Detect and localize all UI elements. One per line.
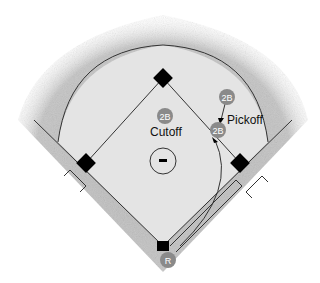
player-2b-pickoff: 2B [210, 122, 226, 138]
pitcher-icon [159, 159, 167, 162]
svg-text:2B: 2B [221, 93, 232, 103]
svg-text:2B: 2B [159, 112, 170, 122]
pickoff-label: Pickoff [227, 113, 263, 127]
baseball-field-diagram: 2B Cutoff 2B Pickoff 2B R [0, 0, 320, 283]
svg-text:2B: 2B [212, 126, 223, 136]
player-2b-start: 2B [219, 89, 235, 105]
player-2b-cutoff: 2B [157, 108, 173, 124]
cutoff-label: Cutoff [150, 125, 182, 139]
svg-text:R: R [165, 256, 172, 266]
home-plate [157, 241, 169, 251]
player-runner: R [160, 252, 176, 268]
